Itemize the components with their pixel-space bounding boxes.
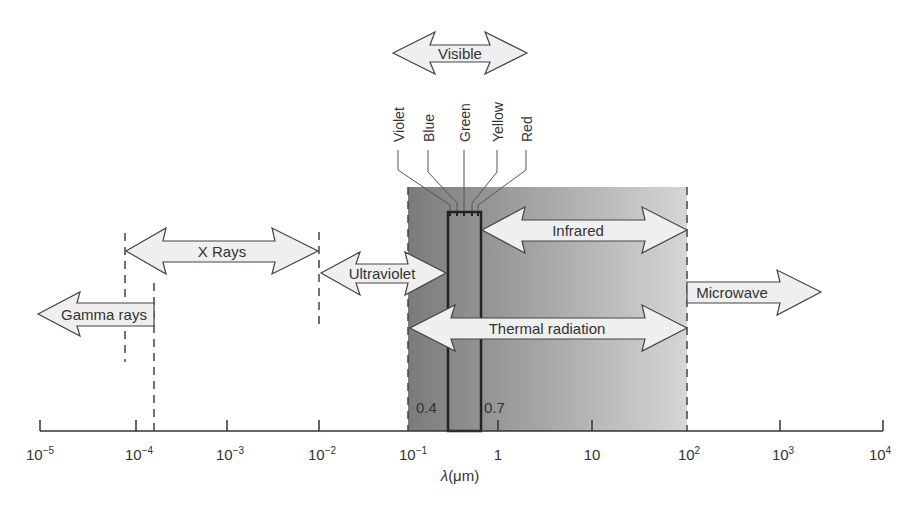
tick-label: 10−4 [125, 445, 154, 463]
tick-label: 103 [772, 445, 795, 463]
infrared-label: Infrared [552, 222, 604, 239]
microwave-label: Microwave [696, 284, 768, 301]
tick-label: 10−2 [308, 445, 337, 463]
color-label-yellow: Yellow [490, 101, 506, 142]
thermal-radiation-label: Thermal radiation [489, 320, 606, 337]
tick-label: 104 [869, 445, 892, 463]
electromagnetic-spectrum-diagram: Visible X Rays Gamma rays Ultraviolet In… [0, 0, 918, 511]
tick-label: 10 [584, 446, 601, 463]
tick-label: 10−5 [26, 445, 55, 463]
tick-label: 10−3 [216, 445, 245, 463]
tick-labels: 10−5 10−4 10−3 10−2 10−1 1 10 102 103 10… [26, 445, 892, 463]
color-label-violet: Violet [391, 107, 407, 142]
ultraviolet-label: Ultraviolet [349, 265, 417, 282]
tick-label: 10−1 [399, 445, 428, 463]
visible-upper-bound: 0.7 [484, 399, 505, 416]
axis-label: λ(μm) [440, 467, 480, 484]
color-label-green: Green [457, 103, 473, 142]
tick-label: 1 [494, 446, 502, 463]
xrays-label: X Rays [198, 243, 246, 260]
visible-label: Visible [438, 45, 482, 62]
tick-label: 102 [678, 445, 701, 463]
gamma-rays-label: Gamma rays [61, 306, 147, 323]
color-label-red: Red [519, 116, 535, 142]
visible-lower-bound: 0.4 [416, 399, 437, 416]
color-label-blue: Blue [421, 114, 437, 142]
